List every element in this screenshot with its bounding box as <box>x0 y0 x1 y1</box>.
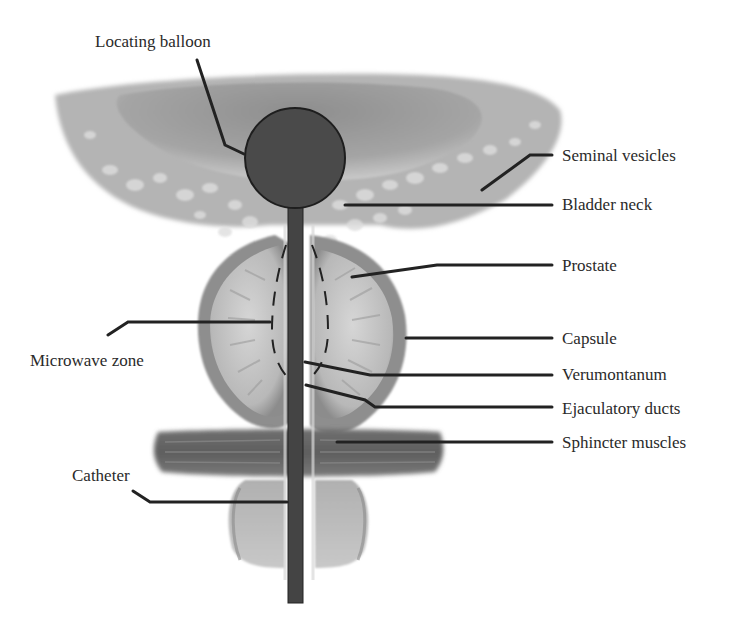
locating-balloon <box>245 108 345 208</box>
catheter-shaft <box>288 205 303 603</box>
label-verumontanum: Verumontanum <box>562 366 667 383</box>
prostate-microwave-diagram: Locating balloon Seminal vesicles Bladde… <box>0 0 750 629</box>
label-microwave-zone: Microwave zone <box>30 352 144 369</box>
label-ejaculatory-ducts: Ejaculatory ducts <box>562 400 681 417</box>
label-sphincter-muscles: Sphincter muscles <box>562 434 686 451</box>
label-locating-balloon: Locating balloon <box>95 33 211 50</box>
label-capsule: Capsule <box>562 330 617 347</box>
label-seminal-vesicles: Seminal vesicles <box>562 147 676 164</box>
anatomy-illustration <box>0 0 750 629</box>
label-bladder-neck: Bladder neck <box>562 196 652 213</box>
label-prostate: Prostate <box>562 257 617 274</box>
label-catheter: Catheter <box>72 467 130 484</box>
